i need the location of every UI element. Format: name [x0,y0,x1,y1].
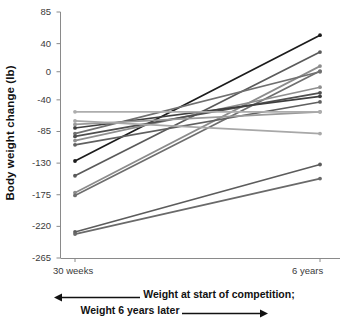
slope-line [75,179,320,235]
right-arrow-icon [182,306,268,315]
data-point-marker [318,163,322,167]
slope-line [75,72,320,134]
data-point-marker [73,143,77,147]
data-point-marker [73,135,77,139]
data-point-marker [73,159,77,163]
y-tick-label: -220 [11,221,51,231]
data-point-marker [73,123,77,127]
data-point-marker [73,110,77,114]
caption-line-2: Weight 6 years later [0,301,349,317]
y-tick-label: -130 [11,158,51,168]
left-arrow-icon [54,290,140,299]
data-point-marker [318,100,322,104]
caption-text-2: Weight 6 years later [81,302,180,318]
slope-line [75,35,320,161]
data-point-marker [73,174,77,178]
slope-lines-group [75,35,320,234]
data-point-marker [318,64,322,68]
slope-line [75,165,320,232]
data-point-marker [73,126,77,130]
data-point-marker [73,139,77,143]
caption-line-1: Weight at start of competition; [0,285,349,301]
y-tick-label: 85 [11,7,51,17]
y-tick-label: -85 [11,126,51,136]
data-point-marker [318,50,322,54]
x-tick-label-left: 30 weeks [53,266,93,276]
data-point-marker [318,177,322,181]
x-tick-label-right: 6 years [292,266,323,276]
data-point-marker [73,119,77,123]
data-point-marker [318,33,322,37]
data-point-marker [318,70,322,74]
data-point-marker [318,94,322,98]
y-tick-label: -265 [11,253,51,263]
y-tick-label: -175 [11,190,51,200]
data-point-marker [318,91,322,95]
caption-text-1: Weight at start of competition; [143,286,294,302]
data-point-marker [73,194,77,198]
data-point-marker [318,132,322,136]
slope-chart-figure: Body weight change (lb) 85400-40-85-130-… [0,0,349,320]
y-tick-label: -40 [11,95,51,105]
x-axis-caption: Weight at start of competition; Weight 6… [0,285,349,317]
y-tick-label: 0 [11,67,51,77]
y-tick-marks [57,12,61,258]
data-point-marker [318,110,322,114]
data-point-marker [318,85,322,89]
y-tick-label: 40 [11,39,51,49]
data-point-marker [73,232,77,236]
